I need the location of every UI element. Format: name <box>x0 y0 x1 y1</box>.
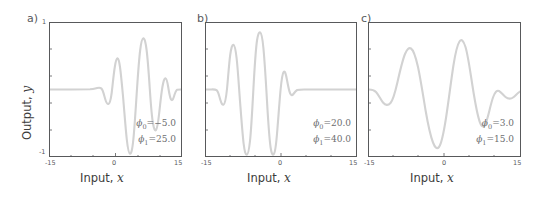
plot-area-c: ϕ0=3.0 ϕ1=15.0 <box>368 22 521 157</box>
phi0-equals-a: = <box>147 118 155 128</box>
phi1-equals-a: = <box>148 134 156 144</box>
x-tick-right-b: 15 <box>349 159 357 167</box>
y-axis-label-var: y <box>20 86 34 93</box>
phi0-equals-b: = <box>323 118 331 128</box>
x-axis-label-var-a: x <box>117 171 124 185</box>
y-axis-label-text: Output, <box>20 93 34 140</box>
x-axis-label-c: Input, x <box>410 171 454 185</box>
phi1-value-b: 40.0 <box>331 134 351 144</box>
x-tick-mid-a: 0 <box>112 159 116 167</box>
annotation-b-phi0: ϕ0=20.0 <box>313 117 351 133</box>
annotation-a-phi1: ϕ1=25.0 <box>136 133 176 149</box>
x-axis-label-b: Input, x <box>247 171 291 185</box>
annotation-c: ϕ0=3.0 ϕ1=15.0 <box>476 117 514 149</box>
x-tick-left-b: -15 <box>201 159 212 167</box>
y-tick-bottom-a: -1 <box>39 148 45 156</box>
phi1-equals-b: = <box>323 134 331 144</box>
phi0-value-a: −5.0 <box>154 118 176 128</box>
y-axis-label: Output, y <box>20 86 34 140</box>
x-tick-mid-c: 0 <box>442 159 446 167</box>
panel-b: b) ϕ0=20.0 ϕ1=40.0 -15 0 15 Input, x <box>190 0 358 197</box>
panel-a: a) Output, y 1 -1 ϕ0=−5.0 ϕ1=25.0 -15 0 … <box>0 0 190 197</box>
x-axis-label-var-c: x <box>447 171 454 185</box>
x-axis-label-var-b: x <box>284 171 291 185</box>
annotation-b: ϕ0=20.0 ϕ1=40.0 <box>313 117 351 149</box>
plot-area-a: ϕ0=−5.0 ϕ1=25.0 <box>49 22 182 157</box>
phi1-equals-c: = <box>486 134 494 144</box>
phi0-equals-c: = <box>492 118 500 128</box>
x-axis-label-text-b: Input, <box>247 171 284 185</box>
figure-container: a) Output, y 1 -1 ϕ0=−5.0 ϕ1=25.0 -15 0 … <box>0 0 541 197</box>
phi1-value-c: 15.0 <box>494 134 514 144</box>
phi0-value-b: 20.0 <box>331 118 351 128</box>
x-axis-label-a: Input, x <box>80 171 124 185</box>
phi1-value-a: 25.0 <box>156 134 176 144</box>
x-tick-mid-b: 0 <box>278 159 282 167</box>
plot-area-b: ϕ0=20.0 ϕ1=40.0 <box>205 22 357 157</box>
annotation-a-phi0: ϕ0=−5.0 <box>136 117 176 133</box>
panel-label-a: a) <box>27 12 38 25</box>
x-axis-label-text-c: Input, <box>410 171 447 185</box>
annotation-b-phi1: ϕ1=40.0 <box>313 133 351 149</box>
phi0-value-c: 3.0 <box>500 118 514 128</box>
annotation-c-phi0: ϕ0=3.0 <box>476 117 514 133</box>
annotation-c-phi1: ϕ1=15.0 <box>476 133 514 149</box>
x-tick-left-c: -15 <box>364 159 375 167</box>
annotation-a: ϕ0=−5.0 ϕ1=25.0 <box>136 117 176 149</box>
x-axis-label-text-a: Input, <box>80 171 117 185</box>
x-tick-right-c: 15 <box>513 159 521 167</box>
x-tick-left-a: -15 <box>45 159 56 167</box>
y-tick-top-a: 1 <box>42 18 46 26</box>
x-tick-right-a: 15 <box>174 159 182 167</box>
panel-c: c) ϕ0=3.0 ϕ1=15.0 -15 0 15 Input, x <box>358 0 541 197</box>
